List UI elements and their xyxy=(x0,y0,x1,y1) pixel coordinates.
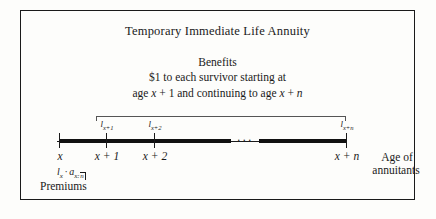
benefits-line-2-var-n: n xyxy=(297,87,303,99)
benefits-line-2: age x + 1 and continuing to age x + n xyxy=(20,87,415,99)
benefits-line-2-prefix: age xyxy=(132,87,151,99)
premiums-label: Premiums xyxy=(40,180,87,192)
tick-mark-x-plus-2 xyxy=(154,133,155,148)
survivor-label-sub: x+1 xyxy=(103,124,114,131)
benefits-line-1: $1 to each survivor starting at xyxy=(20,71,415,83)
tick-mark-x-plus-1 xyxy=(106,133,107,148)
survivor-label-sub: x+n xyxy=(343,124,354,131)
premium-formula-a-sub-term: n xyxy=(80,172,86,181)
axis-caption-line-2: annuitants xyxy=(356,164,436,176)
survivor-label-sub: x+2 xyxy=(151,124,162,131)
benefits-line-2-plus: + xyxy=(285,87,297,99)
tick-mark-x xyxy=(59,133,60,148)
timeline-ellipsis: ··· xyxy=(231,133,259,148)
payment-bar-right xyxy=(259,139,347,143)
axis-caption-line-1: Age of xyxy=(362,150,432,164)
tick-mark-x-plus-n xyxy=(346,133,347,148)
survivor-label-l-x-plus-n: lx+n xyxy=(328,119,366,131)
survivor-label-l-x-plus-1: lx+1 xyxy=(88,119,126,131)
annuity-diagram: Temporary Immediate Life Annuity Benefit… xyxy=(0,0,436,219)
benefit-period-rule xyxy=(96,116,346,117)
payment-bar-left xyxy=(60,139,231,143)
age-label-x-plus-1: x + 1 xyxy=(84,150,130,162)
age-label-x: x xyxy=(50,150,70,162)
benefits-line-2-middle: + 1 and continuing to age xyxy=(156,87,279,99)
benefits-heading: Benefits xyxy=(20,56,415,68)
premium-formula: lx·ax:n xyxy=(57,166,86,180)
survivor-label-l-x-plus-2: lx+2 xyxy=(136,119,174,131)
premium-formula-a-sub: x:n xyxy=(74,172,86,180)
age-label-x-plus-2: x + 2 xyxy=(132,150,178,162)
diagram-title: Temporary Immediate Life Annuity xyxy=(20,24,415,39)
